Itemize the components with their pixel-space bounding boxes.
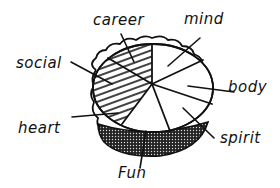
label-heart: heart bbox=[18, 121, 60, 136]
label-body: body bbox=[228, 80, 267, 95]
label-mind: mind bbox=[184, 12, 224, 27]
label-social: social bbox=[16, 56, 62, 71]
label-spirit: spirit bbox=[220, 131, 261, 146]
label-career: career bbox=[93, 13, 144, 28]
label-fun: Fun bbox=[118, 166, 147, 181]
